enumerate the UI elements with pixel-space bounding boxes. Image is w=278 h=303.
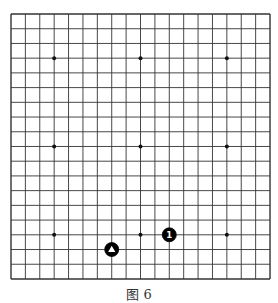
move-number-label: 1 xyxy=(166,230,172,240)
black-stone-triangle-marked xyxy=(105,243,119,257)
star-point xyxy=(225,56,229,60)
black-stone-numbered: 1 xyxy=(162,228,176,242)
star-point xyxy=(52,144,56,148)
star-point xyxy=(139,233,143,237)
star-point xyxy=(225,233,229,237)
star-point xyxy=(139,56,143,60)
figure-caption: 图 6 xyxy=(0,284,278,303)
star-point xyxy=(52,233,56,237)
star-point xyxy=(225,144,229,148)
star-point xyxy=(139,144,143,148)
star-point xyxy=(52,56,56,60)
